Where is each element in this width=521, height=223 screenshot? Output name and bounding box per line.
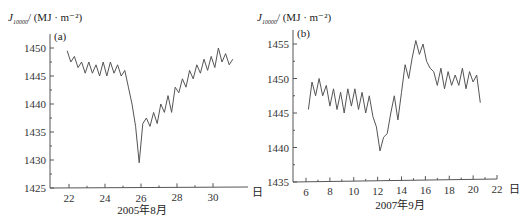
x-tick-label: 22: [492, 183, 503, 195]
y-tick-label: 1450: [24, 42, 47, 54]
panel-b-x-unit: 日: [509, 183, 520, 195]
x-tick-label: 24: [100, 192, 112, 204]
x-tick-label: 22: [64, 192, 75, 204]
y-tick-label: 1430: [24, 154, 47, 166]
x-tick-label: 26: [136, 192, 148, 204]
panel-b-ylabel: J10000/ (MJ · m⁻²): [257, 11, 331, 25]
x-tick-label: 30: [208, 191, 220, 203]
x-tick-label: 20: [468, 183, 480, 195]
panel-b: J10000/ (MJ · m⁻²) (b) 14551450144514401…: [257, 11, 520, 211]
y-tick-label: 1445: [24, 70, 47, 82]
panel-b-series-line: [308, 41, 480, 151]
x-tick-label: 8: [327, 185, 333, 197]
panel-a-axes: 1450144514401435143014252224262830: [24, 34, 248, 204]
y-tick-label: 1435: [24, 126, 47, 138]
axis-line: [50, 34, 248, 188]
x-tick-label: 6: [303, 186, 309, 198]
y-tick-label: 1440: [24, 98, 47, 110]
panel-a-ylabel: J10000/ (MJ · m⁻²): [8, 11, 82, 25]
x-tick-label: 16: [420, 184, 432, 196]
panel-b-xlabel: 2007年9月: [375, 198, 425, 211]
x-tick-label: 10: [348, 185, 360, 197]
x-tick-label: 12: [372, 185, 383, 197]
panel-b-tag: (b): [297, 27, 310, 40]
x-tick-label: 28: [172, 191, 184, 203]
y-tick-label: 1435: [267, 176, 290, 188]
panel-a-tag: (a): [54, 30, 67, 43]
x-tick-label: 14: [396, 184, 408, 196]
axis-line: [293, 30, 497, 182]
panel-a: J10000/ (MJ · m⁻²) (a) 14501445144014351…: [8, 11, 263, 216]
panel-a-x-unit: 日: [252, 186, 263, 198]
y-tick-label: 1425: [24, 182, 47, 194]
x-tick-label: 18: [444, 184, 456, 196]
panel-a-xlabel: 2005年8月: [117, 203, 167, 216]
y-tick-label: 1455: [267, 38, 290, 50]
chart-canvas: J10000/ (MJ · m⁻²) (a) 14501445144014351…: [0, 0, 521, 223]
y-tick-label: 1450: [267, 73, 290, 85]
panel-a-series-line: [67, 48, 233, 163]
y-tick-label: 1440: [267, 142, 290, 154]
panel-b-axes: 145514501445144014356810121416182022: [267, 30, 503, 198]
y-tick-label: 1445: [267, 107, 290, 119]
